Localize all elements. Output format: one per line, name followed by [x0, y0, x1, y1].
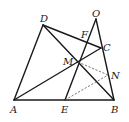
segment-OB: [96, 19, 114, 100]
segment-AD: [14, 25, 43, 100]
label-N: N: [110, 70, 121, 81]
label-D: D: [39, 13, 48, 24]
label-B: B: [110, 104, 118, 115]
label-C: C: [103, 42, 111, 53]
label-O: O: [92, 8, 100, 19]
segment-AC: [14, 48, 101, 100]
label-A: A: [9, 104, 17, 115]
geometry-figure: D O F C M N A E B: [0, 0, 129, 122]
segment-MN: [78, 62, 108, 75]
label-M: M: [62, 56, 74, 67]
label-E: E: [60, 104, 69, 115]
label-F: F: [80, 29, 89, 40]
